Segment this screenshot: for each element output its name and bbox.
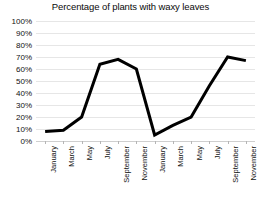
y-axis-tick-label: 50%: [16, 77, 32, 86]
x-axis-tick-label: May: [85, 146, 94, 160]
x-axis-tick-label: March: [176, 146, 185, 167]
chart-container: Percentage of plants with waxy leaves 10…: [0, 0, 261, 209]
y-axis: 100%90%80%70%60%50%40%30%20%10%0%: [0, 21, 34, 141]
x-axis-tick-label: May: [195, 146, 204, 160]
x-axis-tick-label: January: [158, 146, 167, 173]
x-axis-tick-label: July: [103, 146, 112, 159]
y-axis-tick-label: 70%: [16, 53, 32, 62]
x-axis-tick-mark: [155, 141, 156, 144]
y-axis-tick-label: 100%: [12, 17, 32, 26]
x-axis-tick-mark: [45, 141, 46, 144]
y-axis-tick-label: 20%: [16, 113, 32, 122]
x-axis-tick-label: September: [231, 146, 240, 183]
x-axis-tick-mark: [191, 141, 192, 144]
x-axis-tick-mark: [209, 141, 210, 144]
y-axis-tick-label: 40%: [16, 89, 32, 98]
chart-title: Percentage of plants with waxy leaves: [0, 1, 261, 12]
x-axis-tick-label: November: [140, 146, 149, 181]
x-axis-tick-label: March: [67, 146, 76, 167]
x-axis-tick-mark: [173, 141, 174, 144]
x-axis-tick-mark: [228, 141, 229, 144]
y-axis-tick-label: 80%: [16, 41, 32, 50]
x-axis-tick-label: July: [213, 146, 222, 159]
y-axis-tick-label: 0%: [20, 137, 32, 146]
x-axis-tick-label: January: [49, 146, 58, 173]
x-axis-tick-mark: [100, 141, 101, 144]
x-axis-tick-mark: [118, 141, 119, 144]
y-axis-tick-label: 10%: [16, 125, 32, 134]
x-axis-tick-mark: [136, 141, 137, 144]
line-series: [36, 21, 255, 141]
x-axis-tick-mark: [63, 141, 64, 144]
x-axis-tick-mark: [82, 141, 83, 144]
x-axis-tick-label: November: [249, 146, 258, 181]
y-axis-tick-label: 60%: [16, 65, 32, 74]
y-axis-tick-label: 30%: [16, 101, 32, 110]
x-axis-line: [36, 141, 255, 142]
x-axis-tick-label: September: [122, 146, 131, 183]
x-axis-tick-mark: [246, 141, 247, 144]
series-polyline: [45, 57, 246, 135]
y-axis-tick-label: 90%: [16, 29, 32, 38]
